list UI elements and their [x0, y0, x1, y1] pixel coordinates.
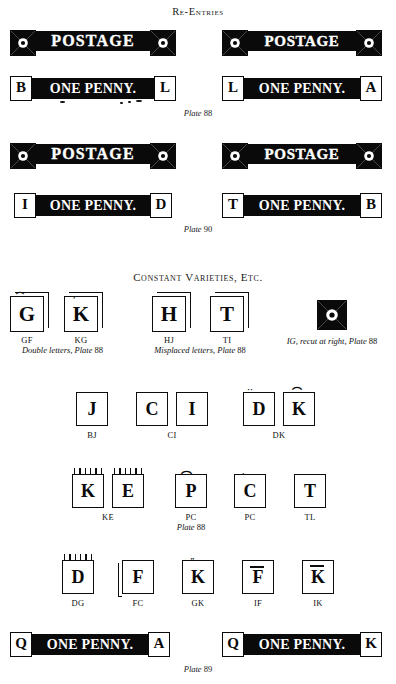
corner-letter-left: B	[10, 76, 32, 101]
penny-word: ONE PENNY.	[31, 638, 149, 652]
variety-label-ik: IK	[292, 598, 344, 608]
variety-glyph: K	[302, 560, 334, 594]
caption-plate-88-row3: Plate 88	[165, 522, 217, 532]
variety-label-ti: TI	[200, 335, 254, 345]
page-title: Re-Entries	[0, 6, 396, 17]
variety-label-tl: TL	[284, 512, 336, 522]
caption-text: IG, recut at right, Plate	[287, 336, 367, 346]
constant-varieties-title: Constant Varieties, etc.	[0, 271, 396, 283]
variety-glyph: K	[283, 392, 315, 426]
variety-label-dg: DG	[52, 598, 104, 608]
penny-strip-plate89-left: Q ONE PENNY. A	[10, 632, 170, 657]
plate-caption-89: Plate 89	[0, 664, 396, 674]
penny-band: ONE PENNY.	[243, 195, 361, 216]
star-corner-icon	[222, 30, 248, 56]
star-corner-icon	[10, 143, 36, 169]
plate-page: Re-Entries POSTAGE	[0, 0, 396, 684]
plate-caption-number: 90	[204, 224, 213, 234]
variety-box-fc: F	[122, 560, 154, 594]
postage-band: POSTAGE	[247, 144, 357, 164]
variety-glyph: G	[10, 296, 44, 332]
penny-band: ONE PENNY.	[243, 634, 361, 655]
caption-text: Misplaced letters, Plate	[154, 345, 235, 355]
corner-letter-right: L	[154, 76, 176, 101]
penny-strip-plate90-right: T ONE PENNY. B	[222, 193, 382, 218]
star-corner-icon	[222, 143, 248, 169]
variety-glyph: J	[76, 392, 108, 426]
penny-band: ONE PENNY.	[31, 78, 155, 99]
variety-glyph: F	[242, 560, 274, 594]
postage-word: POSTAGE	[35, 33, 151, 49]
postage-word: POSTAGE	[247, 34, 357, 49]
plate-caption-88: Plate 88	[0, 108, 396, 118]
penny-strip-plate88-left: B ONE PENNY. L	[10, 76, 176, 101]
variety-box-kg: K ʹ	[64, 296, 98, 332]
variety-box-pa: P ⌒	[175, 474, 207, 508]
corner-letter-right: K	[360, 632, 382, 657]
plate-caption-number: 89	[204, 664, 213, 674]
variety-label-hj: HJ	[142, 335, 196, 345]
variety-glyph: D	[243, 392, 275, 426]
corner-letter-right: A	[148, 632, 170, 657]
variety-box-gf: G ⌒	[10, 296, 44, 332]
variety-label-if: IF	[232, 598, 284, 608]
variety-glyph: P	[175, 474, 207, 508]
penny-strip-plate90-left: I ONE PENNY. D	[14, 193, 172, 218]
variety-label-pa: PC	[165, 512, 217, 522]
penny-word: ONE PENNY.	[31, 82, 155, 96]
variety-box-ci-i: I	[176, 392, 208, 426]
corner-letter-left: T	[222, 193, 244, 218]
postage-word: POSTAGE	[35, 146, 151, 162]
variety-glyph: F	[122, 560, 154, 594]
variety-box-ik: K	[302, 560, 334, 594]
variety-glyph: D	[62, 560, 94, 594]
star-corner-icon	[356, 30, 382, 56]
plate-caption-label: Plate	[184, 224, 202, 234]
caption-ig-recut: IG, recut at right, Plate 88	[268, 336, 396, 346]
caption-number: 88	[95, 345, 104, 355]
variety-label-dk: DK	[253, 430, 305, 440]
caption-number: 88	[369, 336, 378, 346]
variety-box-tl: T	[294, 474, 326, 508]
star-corner-icon	[150, 143, 176, 169]
corner-letter-left: Q	[222, 632, 244, 657]
variety-box-ke-k: K	[72, 474, 104, 508]
penny-strip-plate89-right: Q ONE PENNY. K	[222, 632, 382, 657]
star-corner-icon	[150, 30, 176, 56]
penny-band: ONE PENNY.	[35, 195, 151, 216]
penny-word: ONE PENNY.	[35, 199, 151, 213]
variety-box-hj: H	[152, 296, 186, 332]
caption-misplaced-letters: Misplaced letters, Plate 88	[130, 345, 270, 355]
plate-caption-number: 88	[204, 108, 213, 118]
postage-word: POSTAGE	[247, 147, 357, 162]
plate-caption-label: Plate	[184, 108, 202, 118]
variety-label-bj: BJ	[66, 430, 118, 440]
corner-letter-left: Q	[10, 632, 32, 657]
plate-caption-90: Plate 90	[0, 224, 396, 234]
penny-band: ONE PENNY.	[31, 634, 149, 655]
penny-word: ONE PENNY.	[243, 199, 361, 213]
corner-letter-left: I	[14, 193, 36, 218]
penny-strip-plate88-right: L ONE PENNY. A	[222, 76, 382, 101]
variety-glyph: C	[136, 392, 168, 426]
penny-band: ONE PENNY.	[243, 78, 361, 99]
variety-glyph: C	[234, 474, 266, 508]
ink-speck	[136, 100, 142, 102]
variety-box-bj: J	[76, 392, 108, 426]
variety-glyph: H	[152, 296, 186, 332]
caption-double-letters: Double letters, Plate 88	[0, 345, 125, 355]
variety-glyph: K	[72, 474, 104, 508]
variety-box-if: F	[242, 560, 274, 594]
penny-word: ONE PENNY.	[243, 82, 361, 96]
maltese-star-ornament-icon	[317, 300, 347, 330]
postage-band: POSTAGE	[35, 31, 151, 51]
variety-box-ke-e: E	[112, 474, 144, 508]
variety-glyph: K	[182, 560, 214, 594]
variety-box-dk-d: D ˙˙	[243, 392, 275, 426]
corner-letter-left: L	[222, 76, 244, 101]
postage-band: POSTAGE	[35, 144, 151, 164]
variety-box-dk-k: K ⌒	[283, 392, 315, 426]
variety-glyph: T	[294, 474, 326, 508]
variety-box-ci-c: C	[136, 392, 168, 426]
variety-label-gk: GK	[172, 598, 224, 608]
